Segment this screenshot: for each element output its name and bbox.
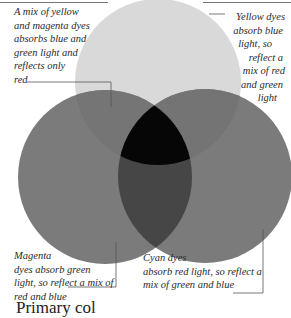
red-mix-label: A mix of yellow and magenta dyes absorbs… <box>14 5 90 86</box>
red-label-line: and magenta dyes <box>14 19 90 33</box>
cyan-label-line: Cyan dyes <box>143 251 262 265</box>
red-label-line: absorbs blue and <box>14 32 90 46</box>
yellow-label-line: light <box>233 91 277 105</box>
yellow-label-line: mix of red <box>233 64 285 78</box>
yellow-label-line: light, so <box>233 37 272 51</box>
magenta-label-line: Magenta <box>14 249 113 263</box>
red-label-line: red <box>14 73 90 87</box>
magenta-label-line: light, so reflect a mix of <box>14 276 113 290</box>
figure-caption: Primary col <box>16 298 96 318</box>
red-label-line: A mix of yellow <box>14 5 90 19</box>
yellow-label-line: Yellow dyes <box>233 10 285 24</box>
red-label-line: green light and <box>14 46 90 60</box>
yellow-label-line: reflect a <box>233 51 283 65</box>
cyan-label-line: mix of green and blue <box>143 278 262 292</box>
cyan-dyes-label: Cyan dyes absorb red light, so reflect a… <box>143 251 262 292</box>
magenta-dyes-label: Magenta dyes absorb green light, so refl… <box>14 249 113 303</box>
magenta-label-line: dyes absorb green <box>14 263 113 277</box>
yellow-label-line: absorb blue <box>233 24 283 38</box>
yellow-dyes-label: Yellow dyes absorb blue light, so reflec… <box>233 10 285 105</box>
cyan-label-line: absorb red light, so reflect a <box>143 265 262 279</box>
yellow-label-line: and green <box>233 78 283 92</box>
red-label-line: reflects only <box>14 59 90 73</box>
